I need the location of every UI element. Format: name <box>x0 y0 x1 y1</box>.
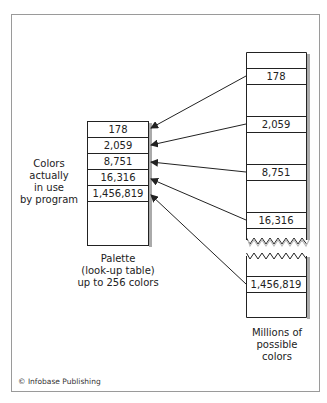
label-line: by program <box>14 194 84 206</box>
mapping-arrows <box>151 76 246 284</box>
caption-line: up to 256 colors <box>72 277 164 289</box>
label-line: Colors <box>14 158 84 170</box>
possible-color-value: 2,059 <box>262 119 291 130</box>
caption-line: possible <box>236 339 318 351</box>
palette-value: 178 <box>108 124 127 135</box>
possible-color-value: 178 <box>266 71 285 82</box>
label-line: actually <box>14 170 84 182</box>
possible-color-value: 16,316 <box>259 215 294 226</box>
caption-line: Palette <box>72 253 164 265</box>
palette-value: 1,456,819 <box>93 188 144 199</box>
colors-in-use-label: Colors actually in use by program <box>14 158 84 206</box>
possible-color-value: 8,751 <box>262 167 291 178</box>
label-line: in use <box>14 182 84 194</box>
caption-line: (look-up table) <box>72 265 164 277</box>
palette-caption: Palette (look-up table) up to 256 colors <box>72 253 164 289</box>
palette-value: 16,316 <box>101 172 136 183</box>
caption-line: colors <box>236 351 318 363</box>
possible-color-value: 1,456,819 <box>251 279 302 290</box>
caption-line: Millions of <box>236 327 318 339</box>
copyright: © Infobase Publishing <box>18 377 101 386</box>
palette-value: 8,751 <box>104 156 133 167</box>
possible-colors-caption: Millions of possible colors <box>236 327 318 363</box>
palette-value: 2,059 <box>104 140 133 151</box>
